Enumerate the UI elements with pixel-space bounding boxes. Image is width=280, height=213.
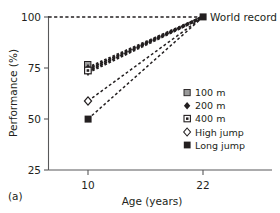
y-tick-labels: 100 75 50 25: [21, 11, 41, 176]
x-tick-label-22: 22: [196, 179, 209, 191]
data-markers-age-10: [84, 62, 91, 123]
performance-vs-age-chart: 100 75 50 25 10 22 Performance (%) Age (…: [0, 0, 280, 213]
figure-panel-a: 100 75 50 25 10 22 Performance (%) Age (…: [0, 0, 280, 213]
legend-label-long-jump: Long jump: [195, 140, 245, 151]
legend-marker-400m-center: [186, 117, 189, 120]
y-tick-label-50: 50: [28, 113, 41, 125]
x-axis-title: Age (years): [122, 195, 183, 207]
legend-marker-200m: [184, 102, 190, 110]
legend-label-200m: 200 m: [195, 100, 225, 111]
marker-world-record-age-22: [200, 13, 207, 20]
legend-label-400m: 400 m: [195, 113, 225, 124]
x-tick-label-10: 10: [81, 179, 94, 191]
legend-label-100m: 100 m: [195, 87, 225, 98]
series-line-200m: [88, 17, 203, 72]
marker-400m-age-10-center: [87, 69, 90, 72]
y-tick-label-75: 75: [28, 62, 41, 74]
marker-high-jump-age-10: [84, 97, 91, 105]
y-tick-label-100: 100: [21, 11, 41, 23]
legend-marker-100m: [184, 90, 190, 96]
marker-long-jump-age-10: [85, 116, 92, 123]
x-tick-labels: 10 22: [81, 179, 209, 191]
y-axis-title: Performance (%): [7, 49, 19, 137]
legend-marker-high-jump: [184, 128, 191, 136]
chart-legend: 100 m 200 m 400 m High jump Long jump: [184, 87, 245, 151]
panel-label: (a): [8, 190, 23, 202]
world-record-annotation: World record: [210, 11, 277, 23]
y-tick-label-25: 25: [28, 164, 41, 176]
legend-label-high-jump: High jump: [195, 127, 244, 138]
legend-marker-long-jump: [184, 142, 191, 149]
